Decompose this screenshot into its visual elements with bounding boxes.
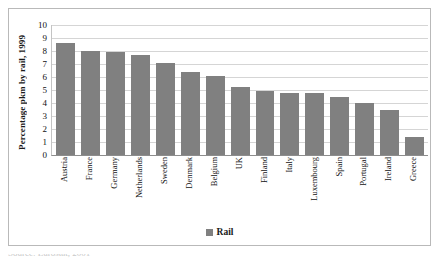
x-axis-tick-label: Greece [409, 157, 418, 181]
x-tick-slot: Italy [276, 157, 301, 227]
x-tick-slot: Ireland [376, 157, 401, 227]
bar-slot [78, 25, 103, 155]
x-axis-tick-label: Sweden [160, 157, 169, 184]
x-tick-slot: Greece [401, 157, 426, 227]
bar-slot [128, 25, 153, 155]
x-axis-tick-label: Luxembourg [310, 157, 319, 201]
bar[interactable] [181, 72, 200, 155]
x-axis-tick-label: Austria [60, 157, 69, 182]
x-axis-tick-label: Netherlands [135, 157, 144, 198]
y-axis-title: Percentage pkm by rail, 1999 [13, 17, 31, 167]
y-axis-tick-label: 2 [43, 125, 48, 134]
chart-legend: Rail [9, 228, 430, 238]
plot-wrapper: 109876543210 AustriaFranceGermanyNetherl… [31, 17, 427, 239]
bar[interactable] [280, 93, 299, 155]
x-axis-tick-label: Belgium [210, 157, 219, 186]
bar[interactable] [131, 55, 150, 155]
bar[interactable] [106, 52, 125, 155]
bar-slot [228, 25, 253, 155]
bar[interactable] [81, 51, 100, 155]
x-axis-tick-label: France [85, 157, 94, 180]
bar[interactable] [380, 110, 399, 156]
legend-item-label: Rail [217, 228, 234, 238]
x-axis-tick-label: Finland [260, 157, 269, 183]
x-axis-tick-label: UK [235, 157, 244, 169]
bar-slot [277, 25, 302, 155]
bar-slot [402, 25, 427, 155]
x-tick-slot: Germany [102, 157, 127, 227]
bar[interactable] [56, 43, 75, 155]
y-axis-tick-label: 4 [43, 99, 48, 108]
bar-slot [377, 25, 402, 155]
bar-slot [352, 25, 377, 155]
y-axis-title-text: Percentage pkm by rail, 1999 [18, 35, 27, 150]
x-axis-tick-label: Portugal [359, 157, 368, 186]
bar[interactable] [305, 93, 324, 155]
rail-color-swatch [206, 229, 213, 236]
x-tick-slot: Austria [52, 157, 77, 227]
bar-slot [53, 25, 78, 155]
bar-slot [153, 25, 178, 155]
x-tick-slot: Denmark [177, 157, 202, 227]
bar-series-rail [52, 25, 428, 155]
plot-area [51, 25, 428, 156]
bar-slot [178, 25, 203, 155]
chart-figure: Percentage pkm by rail, 1999 10987654321… [8, 8, 431, 246]
x-tick-slot: Spain [326, 157, 351, 227]
y-axis-tick-label: 3 [43, 112, 48, 121]
y-axis-tick-label: 1 [43, 138, 48, 147]
bar-slot [302, 25, 327, 155]
x-tick-slot: Portugal [351, 157, 376, 227]
y-axis-tick-label: 5 [43, 86, 48, 95]
bar[interactable] [256, 91, 275, 155]
x-tick-slot: UK [227, 157, 252, 227]
x-tick-slot: Belgium [202, 157, 227, 227]
bar[interactable] [355, 103, 374, 155]
x-tick-slot: France [77, 157, 102, 227]
y-axis-tick-label: 10 [38, 21, 47, 30]
x-tick-slot: Luxembourg [301, 157, 326, 227]
y-axis-tick-label: 7 [43, 60, 48, 69]
bar[interactable] [206, 76, 225, 155]
source-note-clipped: Source: Eurostat, 2001 [8, 254, 208, 263]
y-axis-tick-label: 0 [43, 151, 48, 160]
x-axis-tick-label: Germany [110, 157, 119, 189]
x-axis-category-labels: AustriaFranceGermanyNetherlandsSwedenDen… [51, 157, 427, 227]
x-axis-tick-label: Denmark [185, 157, 194, 189]
x-tick-slot: Finland [252, 157, 277, 227]
y-axis-tick-label: 6 [43, 73, 48, 82]
bar[interactable] [231, 87, 250, 155]
bar[interactable] [405, 137, 424, 155]
bar[interactable] [156, 63, 175, 155]
y-axis-tick-label: 9 [43, 34, 48, 43]
bar[interactable] [330, 97, 349, 156]
y-axis-tick-labels: 109876543210 [31, 25, 47, 155]
x-tick-slot: Sweden [152, 157, 177, 227]
y-axis-tick-label: 8 [43, 47, 48, 56]
bar-slot [327, 25, 352, 155]
bar-slot [253, 25, 278, 155]
source-note-text: Source: Eurostat, 2001 [8, 254, 208, 258]
bar-slot [203, 25, 228, 155]
x-tick-slot: Netherlands [127, 157, 152, 227]
bar-slot [103, 25, 128, 155]
x-axis-tick-label: Italy [285, 157, 294, 173]
x-axis-tick-label: Ireland [384, 157, 393, 181]
x-axis-tick-label: Spain [335, 157, 344, 176]
